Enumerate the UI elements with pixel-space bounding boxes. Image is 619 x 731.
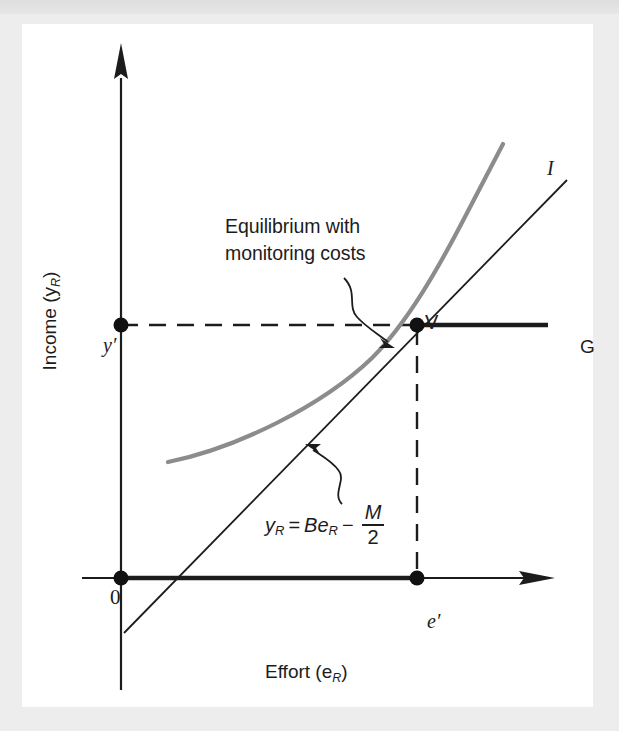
formula-lhs-subscript: R (275, 523, 284, 538)
indifference-curve (168, 144, 503, 462)
annotation-arrow-equilibrium (344, 278, 395, 348)
formula-variable-e: e (317, 514, 328, 537)
y-axis-label: Income (yR) (39, 221, 61, 421)
annotation-line-1: Equilibrium with (225, 215, 360, 237)
formula-equals: = (284, 514, 304, 537)
formula-minus: − (338, 514, 358, 537)
origin-label: 0 (110, 585, 121, 610)
eprime-axis-marker (410, 571, 425, 586)
formula-fraction: M 2 (362, 502, 385, 548)
formula-lhs: y (265, 514, 275, 537)
yprime-label: y′ (103, 334, 116, 357)
formula-variable-e-subscript: R (329, 523, 338, 538)
equilibrium-point-label: V (425, 311, 438, 334)
y-axis-label-subscript: R (49, 278, 63, 287)
equilibrium-point-marker (410, 318, 425, 333)
annotation-line-2: monitoring costs (225, 242, 365, 264)
figure-drawing (22, 24, 593, 707)
yprime-axis-marker (114, 318, 129, 333)
formula-fraction-denominator: 2 (364, 526, 381, 548)
annotation-arrow-formula (305, 444, 342, 504)
figure-panel: Equilibrium with monitoring costs Income… (22, 24, 593, 707)
formula-fraction-numerator: M (362, 502, 385, 524)
reservation-line-label: G (580, 336, 595, 358)
x-axis-label-main: Effort (e (265, 661, 332, 682)
indifference-curve-label: I (547, 157, 554, 180)
budget-line-formula: yR = BeR − M 2 (265, 502, 384, 548)
x-axis-label-subscript: R (332, 671, 341, 685)
eprime-label: e′ (427, 610, 440, 633)
x-axis-label-tail: ) (341, 661, 347, 682)
y-axis-label-main: Income (y (39, 287, 60, 370)
figure-caption-partial (0, 0, 619, 13)
page-background: Equilibrium with monitoring costs Income… (0, 0, 619, 731)
formula-coefficient-b: B (304, 514, 317, 537)
y-axis-label-tail: ) (39, 272, 60, 278)
x-axis-label: Effort (eR) (265, 661, 348, 683)
origin-marker (114, 571, 129, 586)
equilibrium-annotation-label: Equilibrium with monitoring costs (225, 213, 365, 267)
